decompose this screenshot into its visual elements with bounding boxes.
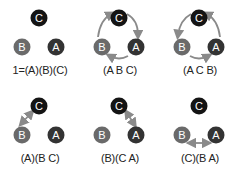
svg-text:C: C: [195, 12, 203, 24]
permutation-label: (A)(B C): [0, 152, 80, 164]
svg-text:B: B: [178, 129, 185, 141]
svg-text:A: A: [212, 41, 220, 53]
arrow-icon: [22, 113, 31, 123]
svg-text:B: B: [98, 129, 105, 141]
node-A: A: [208, 39, 225, 56]
permutation-cell: C B A (A)(B C): [0, 88, 80, 176]
svg-text:B: B: [98, 41, 105, 53]
svg-text:C: C: [115, 12, 123, 24]
svg-text:A: A: [52, 129, 60, 141]
svg-text:B: B: [18, 129, 25, 141]
node-A: A: [208, 127, 225, 144]
permutation-cell: C B A (B)(C A): [80, 88, 160, 176]
svg-text:B: B: [178, 41, 185, 53]
node-A: A: [128, 39, 145, 56]
arrow-icon: [127, 113, 134, 124]
permutation-label: (B)(C A): [80, 152, 160, 164]
permutation-label: (A C B): [160, 64, 240, 76]
node-C: C: [191, 10, 208, 27]
node-C: C: [111, 98, 128, 115]
permutation-cell: C B A (A B C): [80, 0, 160, 88]
svg-text:A: A: [132, 129, 140, 141]
node-C: C: [31, 98, 48, 115]
permutation-cell: C B A (C)(B A): [160, 88, 240, 176]
permutation-label: (A B C): [80, 64, 160, 76]
permutation-cell: C B A 1=(A)(B)(C): [0, 0, 80, 88]
node-C: C: [31, 10, 48, 27]
svg-text:C: C: [35, 100, 43, 112]
node-C: C: [191, 98, 208, 115]
node-B: B: [14, 127, 31, 144]
node-B: B: [94, 39, 111, 56]
node-A: A: [48, 127, 65, 144]
permutation-label: (C)(B A): [160, 152, 240, 164]
svg-text:A: A: [212, 129, 220, 141]
permutation-cell: C B A (A C B): [160, 0, 240, 88]
svg-text:A: A: [132, 41, 140, 53]
node-B: B: [174, 39, 191, 56]
node-A: A: [48, 39, 65, 56]
node-B: B: [94, 127, 111, 144]
svg-text:C: C: [195, 100, 203, 112]
node-B: B: [14, 39, 31, 56]
node-A: A: [128, 127, 145, 144]
node-C: C: [111, 10, 128, 27]
permutation-label: 1=(A)(B)(C): [0, 64, 80, 76]
node-B: B: [174, 127, 191, 144]
svg-text:C: C: [115, 100, 123, 112]
svg-text:B: B: [18, 41, 25, 53]
svg-text:C: C: [35, 12, 43, 24]
svg-text:A: A: [52, 41, 60, 53]
